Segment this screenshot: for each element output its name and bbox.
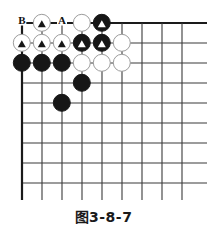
triangle-marker-icon	[58, 40, 66, 47]
triangle-marker-icon	[78, 40, 86, 47]
figure-caption: 图3-8-7	[0, 206, 207, 226]
go-problem-figure: BA 图3-8-7	[0, 0, 207, 241]
triangle-marker-icon	[38, 40, 46, 47]
triangle-marker-icon	[98, 40, 106, 47]
triangle-marker-icon	[98, 20, 106, 27]
point-label-a[interactable]: A	[57, 15, 67, 26]
triangle-marker-icon	[38, 20, 46, 27]
triangle-marker-icon	[18, 40, 26, 47]
point-label-b[interactable]: B	[17, 15, 26, 26]
go-board: BA	[0, 0, 207, 200]
